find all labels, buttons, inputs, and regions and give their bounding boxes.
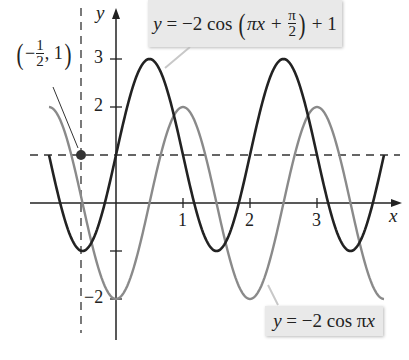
callout-eq: = −2 cos π (282, 310, 367, 332)
callout-y: y (153, 13, 161, 35)
fraction-numerator: 1 (36, 38, 44, 53)
point-label-fraction: 1 2 (36, 38, 44, 69)
callout-x: x (366, 310, 374, 332)
callout-y: y (273, 310, 281, 332)
y-tick-label-3: 3 (94, 47, 103, 68)
point-label: ( − 1 2 , 1 ) (15, 38, 73, 69)
x-axis-label: x (389, 205, 397, 227)
x-tick-label-2: 2 (245, 210, 254, 231)
callout-eq: = −2 cos (162, 13, 237, 35)
point-label-open-paren: ( (17, 39, 24, 69)
y-tick-label-2: 2 (94, 95, 103, 116)
y-axis-arrow-icon (112, 8, 120, 19)
point-label-y: 1 (54, 43, 63, 64)
callout-close-paren: ) (298, 9, 305, 39)
point-label-close-paren: ) (64, 39, 71, 69)
point-label-minus: − (25, 43, 35, 64)
callout-tail: + 1 (307, 13, 337, 35)
y-axis-label: y (96, 2, 104, 24)
point-marker (76, 150, 86, 160)
x-tick-label-3: 3 (312, 210, 321, 231)
bottom-callout-pointer (268, 285, 278, 305)
fraction-numerator: π (288, 8, 296, 23)
bottom-equation-callout: y = −2 cos π x (265, 306, 383, 336)
axis-ticks (110, 59, 317, 299)
fraction-denominator: 2 (36, 54, 44, 69)
top-equation-callout: y = −2 cos ( πx + π 2 ) + 1 (148, 0, 342, 47)
callout-open-paren: ( (239, 9, 246, 39)
top-callout-pointer (165, 47, 190, 68)
callout-fraction: π 2 (288, 8, 296, 39)
x-tick-label-1: 1 (178, 210, 187, 231)
point-label-comma: , (45, 43, 54, 64)
callout-pix: πx + (247, 13, 287, 35)
fraction-denominator: 2 (288, 24, 296, 39)
y-tick-label-neg2: −2 (84, 287, 103, 308)
point-label-pointer (53, 87, 78, 148)
